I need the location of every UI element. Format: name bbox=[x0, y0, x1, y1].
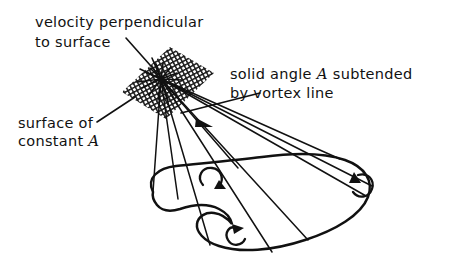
label-surface-line2: constant A bbox=[18, 132, 99, 150]
circulation-arrow-bottom bbox=[227, 224, 245, 245]
ray-6 bbox=[161, 79, 308, 240]
label-surface-line1: surface of bbox=[18, 115, 94, 131]
label-velocity-line2: to surface bbox=[35, 34, 111, 50]
label-solid-angle-prefix: solid angle bbox=[230, 66, 317, 82]
label-solid-angle-suffix: subtended bbox=[328, 66, 413, 82]
ray-direction-arrowhead bbox=[195, 118, 213, 127]
label-surface-constant-prefix: constant bbox=[18, 133, 88, 149]
label-velocity-line1: velocity perpendicular bbox=[35, 14, 204, 30]
circulation-arrow-left bbox=[200, 168, 226, 189]
leader-velocity bbox=[126, 38, 158, 74]
label-surface-symbol-a: A bbox=[86, 132, 99, 150]
ray-3 bbox=[161, 79, 210, 245]
leader-surface bbox=[97, 97, 135, 122]
label-solid-angle-line1: solid angle A subtended bbox=[230, 65, 413, 83]
diagram-svg: velocity perpendicular to surface surfac… bbox=[0, 0, 456, 273]
apex-dot bbox=[158, 76, 165, 83]
diagram-canvas: velocity perpendicular to surface surfac… bbox=[0, 0, 456, 273]
label-solid-angle-symbol-a: A bbox=[315, 65, 328, 83]
label-solid-angle-line2: by vortex line bbox=[230, 85, 334, 101]
